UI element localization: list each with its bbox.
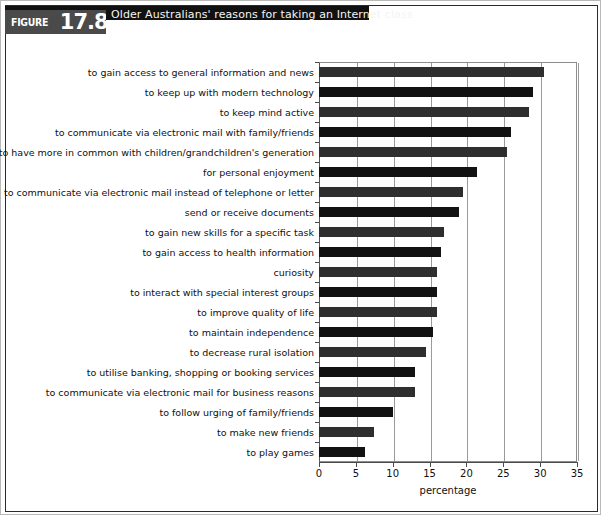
x-axis-tick-label: 20	[460, 468, 473, 479]
y-axis-tick	[315, 342, 319, 343]
y-axis-tick	[315, 302, 319, 303]
y-axis-label: to communicate via electronic mail with …	[55, 127, 314, 138]
bar-row: curiosity	[319, 262, 577, 282]
bar	[319, 167, 477, 177]
bar-row: to keep mind active	[319, 102, 577, 122]
y-axis-label: to gain access to health information	[142, 247, 314, 258]
bar	[319, 367, 415, 377]
y-axis-tick	[315, 62, 319, 63]
bar	[319, 187, 463, 197]
bar-row: to make new friends	[319, 422, 577, 442]
y-axis-label: to improve quality of life	[197, 307, 314, 318]
y-axis-tick	[315, 242, 319, 243]
y-axis-tick	[315, 362, 319, 363]
bar-row: send or receive documents	[319, 202, 577, 222]
x-axis-tick	[503, 462, 504, 467]
y-axis-tick	[315, 82, 319, 83]
y-axis-tick	[315, 422, 319, 423]
y-axis-tick	[315, 222, 319, 223]
x-axis-tick-label: 5	[353, 468, 359, 479]
y-axis-tick	[315, 442, 319, 443]
y-axis-label: to gain access to general information an…	[88, 67, 314, 78]
x-axis-line	[319, 462, 577, 463]
figure-number: 17.8	[60, 12, 106, 33]
bar	[319, 67, 544, 77]
y-axis-tick	[315, 262, 319, 263]
bar	[319, 227, 444, 237]
bar-row: to gain new skills for a specific task	[319, 222, 577, 242]
y-axis-label: to have more in common with children/gra…	[0, 147, 314, 158]
bar	[319, 347, 426, 357]
bar	[319, 387, 415, 397]
bar	[319, 427, 374, 437]
y-axis-tick	[315, 102, 319, 103]
y-axis-tick	[315, 382, 319, 383]
bar-row: to communicate via electronic mail for b…	[319, 382, 577, 402]
y-axis-tick	[315, 182, 319, 183]
x-axis-tick	[319, 462, 320, 467]
bar	[319, 247, 441, 257]
bar	[319, 107, 529, 117]
x-axis-tick-label: 0	[316, 468, 322, 479]
figure-frame: FIGURE 17.8 Older Australians' reasons f…	[0, 0, 601, 515]
bar-row: to have more in common with children/gra…	[319, 142, 577, 162]
bar	[319, 447, 365, 457]
y-axis-label: to interact with special interest groups	[130, 287, 314, 298]
bar-row: to utilise banking, shopping or booking …	[319, 362, 577, 382]
y-axis-tick	[315, 402, 319, 403]
bar-row: to follow urging of family/friends	[319, 402, 577, 422]
y-axis-label: to communicate via electronic mail inste…	[4, 187, 314, 198]
x-axis-tick-label: 30	[534, 468, 547, 479]
bar-row: to maintain independence	[319, 322, 577, 342]
y-axis-label: to play games	[246, 447, 314, 458]
y-axis-label: send or receive documents	[185, 207, 314, 218]
y-axis-label: curiosity	[273, 267, 314, 278]
x-axis-tick	[430, 462, 431, 467]
bar-row: to improve quality of life	[319, 302, 577, 322]
y-axis-label: to make new friends	[217, 427, 314, 438]
bar-row: to gain access to general information an…	[319, 62, 577, 82]
x-axis-tick-label: 10	[386, 468, 399, 479]
x-axis-tick	[393, 462, 394, 467]
x-axis-tick-label: 35	[571, 468, 584, 479]
x-axis-tick-label: 25	[497, 468, 510, 479]
y-axis-label: to utilise banking, shopping or booking …	[87, 367, 314, 378]
y-axis-label: to keep up with modern technology	[145, 87, 314, 98]
y-axis-tick	[315, 162, 319, 163]
y-axis-label: to maintain independence	[189, 327, 314, 338]
bar-rows: to gain access to general information an…	[319, 62, 577, 462]
x-axis-tick	[540, 462, 541, 467]
page-title: Older Australians' reasons for taking an…	[111, 8, 413, 21]
y-axis-label: to communicate via electronic mail for b…	[46, 387, 314, 398]
bar	[319, 307, 437, 317]
bar	[319, 87, 533, 97]
y-axis-tick	[315, 322, 319, 323]
bar	[319, 207, 459, 217]
bar-row: for personal enjoyment	[319, 162, 577, 182]
bar-row: to keep up with modern technology	[319, 82, 577, 102]
bar	[319, 407, 393, 417]
y-axis-tick	[315, 282, 319, 283]
x-axis-tick	[466, 462, 467, 467]
y-axis-tick	[315, 122, 319, 123]
bar	[319, 327, 433, 337]
y-axis-tick	[315, 202, 319, 203]
x-axis-tick	[577, 462, 578, 467]
bar-row: to interact with special interest groups	[319, 282, 577, 302]
figure-tag-word: FIGURE	[11, 16, 48, 29]
y-axis-label: for personal enjoyment	[203, 167, 314, 178]
y-axis-label: to keep mind active	[220, 107, 314, 118]
figure-tag: FIGURE 17.8	[5, 10, 106, 34]
bar-row: to decrease rural isolation	[319, 342, 577, 362]
bar-row: to play games	[319, 442, 577, 462]
x-axis-title: percentage	[319, 485, 577, 496]
bar	[319, 267, 437, 277]
bar	[319, 127, 511, 137]
gridline	[578, 63, 579, 461]
bar-row: to communicate via electronic mail inste…	[319, 182, 577, 202]
bar-row: to gain access to health information	[319, 242, 577, 262]
x-axis-tick	[356, 462, 357, 467]
bar-row: to communicate via electronic mail with …	[319, 122, 577, 142]
x-axis-tick-label: 15	[423, 468, 436, 479]
y-axis-label: to gain new skills for a specific task	[145, 227, 314, 238]
